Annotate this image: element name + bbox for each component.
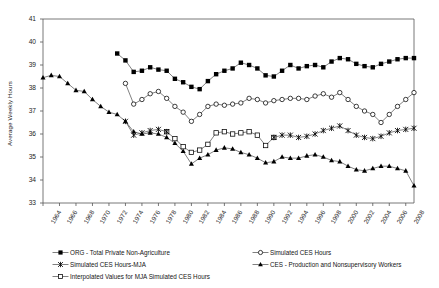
- y-axis-label-container: Average Weekly Hours: [2, 52, 16, 182]
- y-tick-label: 41: [16, 15, 36, 22]
- y-tick-label: 34: [16, 176, 36, 183]
- legend-marker-open-circle: [252, 248, 269, 257]
- y-tick-marks: [40, 19, 43, 203]
- chart-legend: ORG - Total Private Non-AgricultureSimul…: [52, 247, 437, 287]
- y-tick-label: 38: [16, 84, 36, 91]
- chart-plot-area: [0, 0, 439, 288]
- legend-item: ORG - Total Private Non-Agriculture: [52, 247, 170, 257]
- x-tick-marks: [43, 203, 406, 206]
- legend-item: CES - Production and Nonsupervisory Work…: [252, 259, 401, 269]
- y-tick-label: 33: [16, 199, 36, 206]
- axis-frame: [43, 19, 414, 203]
- series-1: [123, 81, 416, 125]
- legend-item: Interpolated Values for MJA Simulated CE…: [52, 271, 210, 281]
- y-tick-label: 40: [16, 38, 36, 45]
- series-4: [40, 73, 416, 188]
- legend-item-label: Interpolated Values for MJA Simulated CE…: [69, 272, 210, 281]
- legend-item: Simulated CES Hours: [252, 247, 331, 257]
- legend-item-label: ORG - Total Private Non-Agriculture: [69, 248, 170, 257]
- legend-marker-filled-square: [52, 248, 69, 257]
- legend-marker-filled-triangle: [252, 260, 269, 269]
- chart-figure: Average Weekly Hours 414039383736353433 …: [0, 0, 439, 288]
- legend-item-label: Simulated CES Hours-MJA: [69, 260, 146, 269]
- y-tick-label: 37: [16, 107, 36, 114]
- series-0: [115, 51, 416, 91]
- series-3: [164, 130, 276, 155]
- legend-marker-open-square: [52, 272, 69, 281]
- y-tick-label: 35: [16, 153, 36, 160]
- legend-item: Simulated CES Hours-MJA: [52, 259, 146, 269]
- y-axis-label: Average Weekly Hours: [6, 49, 13, 179]
- y-tick-label: 39: [16, 61, 36, 68]
- y-tick-label: 36: [16, 130, 36, 137]
- legend-item-label: CES - Production and Nonsupervisory Work…: [269, 260, 401, 269]
- legend-marker-x-cross: [52, 260, 69, 269]
- legend-item-label: Simulated CES Hours: [269, 248, 331, 257]
